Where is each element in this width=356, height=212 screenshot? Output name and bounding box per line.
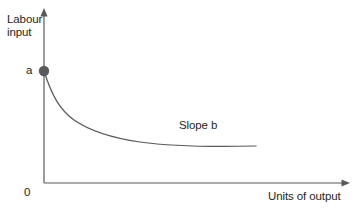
x-axis-title: Units of output xyxy=(268,190,341,203)
y-axis-title-line-2: input xyxy=(7,26,42,39)
origin-label: 0 xyxy=(24,186,30,199)
chart-plot-area xyxy=(0,0,356,212)
x-axis-arrow-icon xyxy=(342,179,351,186)
labour-input-curve xyxy=(44,71,256,147)
intercept-label: a xyxy=(26,64,32,77)
chart-figure: Labourinput a Slope b 0 Units of output xyxy=(0,0,356,212)
intercept-point-marker xyxy=(39,66,49,76)
y-axis-title-line-1: Labour xyxy=(7,13,42,25)
slope-annotation-label: Slope b xyxy=(179,119,217,132)
y-axis-title: Labourinput xyxy=(7,13,42,39)
